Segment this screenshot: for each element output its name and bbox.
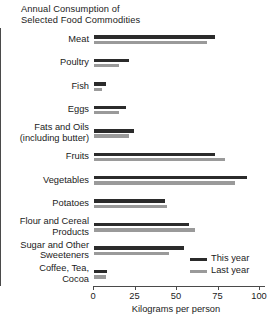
chart-figure: Annual Consumption of Selected Food Comm… — [0, 0, 273, 327]
legend-swatch-this-year — [190, 258, 207, 261]
bar-this-year — [94, 129, 134, 132]
bar-last-year — [94, 111, 119, 114]
bar-this-year — [94, 59, 129, 62]
category-label: Fish — [0, 81, 89, 92]
category-row: Fish — [93, 75, 259, 98]
bar-this-year — [94, 199, 165, 202]
category-label: Coffee, Tea, Cocoa — [0, 263, 89, 284]
bar-last-year — [94, 134, 129, 137]
x-tick-mark — [93, 286, 94, 290]
category-label: Fats and Oils (including butter) — [0, 122, 89, 143]
category-row: Eggs — [93, 98, 259, 121]
category-label: Sugar and Other Sweeteners — [0, 240, 89, 261]
chart-title: Annual Consumption of Selected Food Comm… — [21, 4, 221, 27]
category-label: Fruits — [0, 151, 89, 162]
legend-swatch-last-year — [190, 270, 207, 273]
category-label: Flour and Cereal Products — [0, 216, 89, 237]
category-label: Potatoes — [0, 198, 89, 209]
x-axis-line — [93, 286, 265, 287]
x-tick-label: 100 — [251, 291, 267, 302]
bar-last-year — [94, 64, 119, 67]
bar-last-year — [94, 275, 106, 278]
category-label: Meat — [0, 34, 89, 45]
x-tick-mark — [259, 286, 260, 290]
category-label: Vegetables — [0, 175, 89, 186]
x-tick-label: 25 — [129, 291, 139, 302]
x-tick-mark — [218, 286, 219, 290]
x-tick-mark — [176, 286, 177, 290]
x-axis-title: Kilograms per person — [93, 304, 259, 314]
bar-last-year — [94, 252, 169, 255]
bar-this-year — [94, 35, 215, 38]
bar-this-year — [94, 246, 184, 249]
category-row: Flour and Cereal Products — [93, 216, 259, 239]
bar-last-year — [94, 228, 195, 231]
bar-last-year — [94, 41, 207, 44]
category-row: Vegetables — [93, 169, 259, 192]
bar-this-year — [94, 82, 106, 85]
x-tick-label: 0 — [90, 291, 95, 302]
x-tick-label: 50 — [171, 291, 181, 302]
bar-last-year — [94, 181, 235, 184]
x-tick-label: 75 — [212, 291, 222, 302]
legend-label-last-year: Last year — [211, 265, 249, 276]
x-tick-mark — [135, 286, 136, 290]
bar-last-year — [94, 88, 102, 91]
legend-label-this-year: This year — [211, 253, 249, 264]
category-label: Eggs — [0, 104, 89, 115]
category-label: Poultry — [0, 57, 89, 68]
bar-this-year — [94, 153, 215, 156]
plot-area: MeatPoultryFishEggsFats and Oils (includ… — [93, 28, 259, 286]
bar-this-year — [94, 223, 189, 226]
bar-last-year — [94, 158, 225, 161]
category-row: Poultry — [93, 51, 259, 74]
bar-last-year — [94, 205, 167, 208]
category-row: Fats and Oils (including butter) — [93, 122, 259, 145]
category-row: Potatoes — [93, 192, 259, 215]
category-row: Fruits — [93, 145, 259, 168]
category-row: Meat — [93, 28, 259, 51]
bar-this-year — [94, 176, 247, 179]
bar-this-year — [94, 270, 107, 273]
bar-this-year — [94, 106, 126, 109]
